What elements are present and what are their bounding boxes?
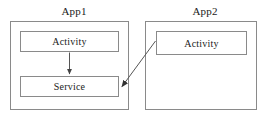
app1-activity-node: Activity <box>20 31 119 52</box>
app2-title: App2 <box>165 5 245 17</box>
app2-activity-label: Activity <box>184 38 218 49</box>
app1-activity-label: Activity <box>52 36 86 47</box>
app1-service-node: Service <box>20 76 119 97</box>
app1-title: App1 <box>34 5 114 17</box>
app2-activity-node: Activity <box>156 31 247 55</box>
app1-service-label: Service <box>54 81 85 92</box>
diagram-canvas: App1 Activity Service App2 Activity <box>0 0 266 120</box>
